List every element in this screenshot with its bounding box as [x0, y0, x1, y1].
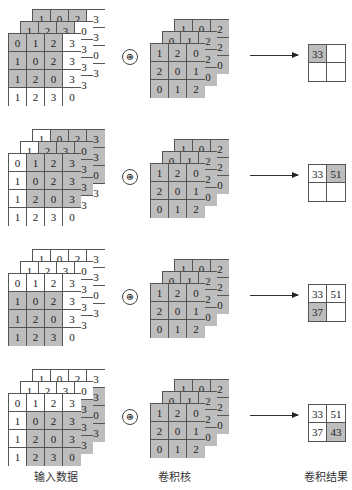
grid-cell: 2	[45, 412, 63, 430]
result-grid: 33513743	[308, 404, 346, 442]
grid-cell: 3	[63, 292, 81, 310]
arrow-right-icon	[250, 55, 298, 56]
grid-cell: 0	[63, 448, 81, 466]
kernel-layer-front: 120201012	[150, 43, 205, 98]
grid-cell: 1	[9, 190, 27, 208]
grid-cell: 1	[187, 302, 205, 320]
grid-cell: 0	[63, 208, 81, 226]
grid-cell: 0	[63, 328, 81, 346]
arrow-right-icon	[250, 175, 298, 176]
grid-cell: 1	[27, 154, 45, 172]
grid-cell: 1	[9, 88, 27, 106]
result-cell: 37	[309, 303, 327, 321]
grid-cell: 0	[45, 310, 63, 328]
grid-cell: 1	[187, 182, 205, 200]
grid-cell: 0	[27, 412, 45, 430]
grid-cell: 2	[27, 328, 45, 346]
result-grid: 3351	[308, 164, 346, 202]
grid-cell: 1	[27, 394, 45, 412]
grid-cell: 1	[151, 164, 169, 182]
grid-cell: 3	[63, 430, 81, 448]
grid-cell: 0	[9, 394, 27, 412]
grid-cell: 2	[27, 448, 45, 466]
grid-cell: 3	[63, 412, 81, 430]
grid-cell: 0	[151, 320, 169, 338]
input-layer-front: 0123102312031230	[8, 273, 81, 346]
grid-cell: 2	[45, 172, 63, 190]
grid-cell: 1	[9, 430, 27, 448]
kernel-label: 卷积核	[158, 468, 191, 484]
grid-cell: 2	[45, 34, 63, 52]
grid-cell: 0	[9, 274, 27, 292]
grid-cell: 1	[9, 208, 27, 226]
kernel-layer-front: 120201012	[150, 283, 205, 338]
kernel-layer-front: 120201012	[150, 403, 205, 458]
grid-cell: 1	[9, 292, 27, 310]
grid-cell: 1	[9, 172, 27, 190]
grid-cell: 3	[63, 172, 81, 190]
result-cell	[309, 63, 327, 81]
grid-cell: 2	[151, 182, 169, 200]
grid-cell: 3	[45, 448, 63, 466]
grid-cell: 2	[151, 302, 169, 320]
grid-cell: 1	[9, 328, 27, 346]
grid-cell: 1	[169, 320, 187, 338]
grid-cell: 0	[169, 62, 187, 80]
result-cell: 33	[309, 45, 327, 63]
grid-cell: 0	[9, 34, 27, 52]
arrow-right-icon	[250, 295, 298, 296]
input-layer-front: 0123102312031230	[8, 153, 81, 226]
convolution-operator-icon: ⊛	[122, 169, 138, 185]
grid-cell: 0	[45, 430, 63, 448]
grid-cell: 1	[151, 284, 169, 302]
grid-cell: 0	[63, 88, 81, 106]
grid-cell: 3	[63, 274, 81, 292]
result-cell: 51	[327, 165, 345, 183]
grid-cell: 1	[9, 310, 27, 328]
grid-cell: 3	[63, 34, 81, 52]
grid-cell: 3	[45, 88, 63, 106]
arrow-right-icon	[250, 415, 298, 416]
grid-cell: 1	[169, 80, 187, 98]
grid-cell: 1	[9, 70, 27, 88]
grid-cell: 0	[169, 182, 187, 200]
result-grid: 335137	[308, 284, 346, 322]
result-cell: 37	[309, 423, 327, 441]
grid-cell: 2	[45, 292, 63, 310]
grid-cell: 1	[9, 52, 27, 70]
result-cell	[327, 63, 345, 81]
grid-cell: 3	[63, 70, 81, 88]
grid-cell: 0	[45, 190, 63, 208]
grid-cell: 2	[27, 430, 45, 448]
grid-cell: 1	[9, 412, 27, 430]
grid-cell: 2	[187, 320, 205, 338]
grid-cell: 3	[63, 52, 81, 70]
grid-cell: 2	[169, 284, 187, 302]
result-cell	[327, 183, 345, 201]
grid-cell: 1	[27, 274, 45, 292]
convolution-operator-icon: ⊛	[122, 409, 138, 425]
grid-cell: 0	[187, 164, 205, 182]
result-cell: 51	[327, 285, 345, 303]
grid-cell: 2	[45, 52, 63, 70]
result-cell	[309, 183, 327, 201]
grid-cell: 3	[45, 328, 63, 346]
result-cell: 33	[309, 405, 327, 423]
grid-cell: 1	[169, 440, 187, 458]
grid-cell: 1	[187, 62, 205, 80]
grid-cell: 0	[187, 44, 205, 62]
grid-cell: 2	[151, 62, 169, 80]
grid-cell: 0	[27, 52, 45, 70]
grid-cell: 0	[151, 80, 169, 98]
result-grid: 33	[308, 44, 346, 82]
grid-cell: 3	[63, 310, 81, 328]
grid-cell: 2	[169, 44, 187, 62]
grid-cell: 3	[63, 394, 81, 412]
grid-cell: 0	[187, 404, 205, 422]
input-data-label: 输入数据	[34, 468, 78, 484]
grid-cell: 3	[63, 190, 81, 208]
grid-cell: 1	[27, 34, 45, 52]
grid-cell: 0	[169, 422, 187, 440]
grid-cell: 1	[9, 448, 27, 466]
result-cell: 43	[327, 423, 345, 441]
